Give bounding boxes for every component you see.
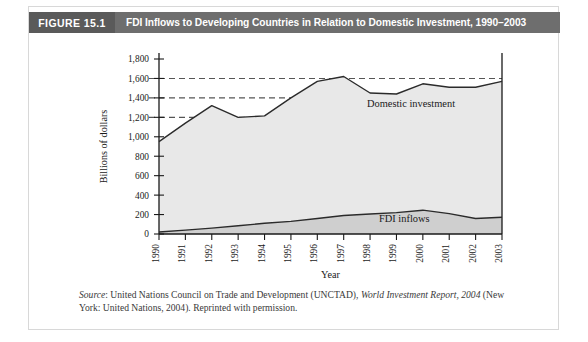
y-tick-label-800: 800 [135, 152, 149, 162]
y-tick-label-1000: 1,000 [128, 132, 149, 142]
source-italic-title: World Investment Report, 2004 [361, 289, 481, 300]
x-tick-label-1997: 1997 [336, 244, 346, 263]
y-tick-label-0: 0 [144, 229, 149, 239]
y-tick-label-1400: 1,400 [128, 93, 149, 103]
y-tick-label-400: 400 [135, 191, 149, 201]
x-tick-label-1993: 1993 [230, 244, 240, 263]
y-tick-label-1600: 1,600 [128, 74, 149, 84]
x-tick-label-1995: 1995 [283, 244, 293, 263]
figure-number-label: FIGURE 15.1 [38, 17, 105, 29]
chart-region: 02004006008001,0001,2001,4001,6001,800 1… [29, 35, 560, 285]
x-tick-label-2001: 2001 [441, 244, 451, 263]
source-prefix: Source [79, 289, 105, 300]
series-annotation-fdi-inflows: FDI inflows [379, 213, 430, 224]
x-tick-label-1991: 1991 [177, 244, 187, 263]
x-tick-label-1992: 1992 [204, 244, 214, 263]
y-tick-label-1800: 1,800 [128, 54, 149, 64]
x-tick-label-1990: 1990 [151, 244, 161, 263]
figure-header-bar: FIGURE 15.1 FDI Inflows to Developing Co… [29, 12, 560, 33]
y-tick-label-200: 200 [135, 210, 149, 220]
x-axis-title: Year [321, 269, 340, 280]
y-tick-label-1200: 1,200 [128, 113, 149, 123]
x-tick-label-2002: 2002 [468, 244, 478, 263]
figure-title: FDI Inflows to Developing Countries in R… [126, 17, 526, 28]
series-annotation-domestic-investment: Domestic investment [367, 98, 455, 109]
x-tick-label-2003: 2003 [494, 244, 504, 263]
x-axis-ticks: 1990199119921993199419951996199719981999… [151, 234, 504, 263]
x-tick-label-1999: 1999 [388, 244, 398, 263]
x-tick-label-1996: 1996 [309, 244, 319, 263]
y-tick-label-600: 600 [135, 171, 149, 181]
x-tick-label-1994: 1994 [257, 244, 267, 263]
figure-container: FIGURE 15.1 FDI Inflows to Developing Co… [28, 6, 559, 330]
y-axis-title: Billions of dollars [98, 110, 109, 184]
source-text-before: : United Nations Council on Trade and De… [105, 289, 361, 300]
source-note: Source: United Nations Council on Trade … [79, 288, 519, 314]
x-tick-label-2000: 2000 [415, 244, 425, 263]
x-tick-label-1998: 1998 [362, 244, 372, 263]
area-chart: 02004006008001,0001,2001,4001,6001,800 1… [29, 35, 560, 285]
figure-number-badge: FIGURE 15.1 [29, 12, 115, 33]
